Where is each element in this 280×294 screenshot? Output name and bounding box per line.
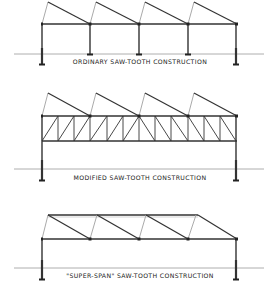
ordinary-saw-tooth-drawing (14, 2, 264, 66)
caption-modified: MODIFIED SAW-TOOTH CONSTRUCTION (0, 174, 280, 181)
saw-tooth-diagram (0, 0, 280, 294)
super-span-saw-tooth-drawing (14, 215, 264, 281)
saw-teeth (42, 93, 237, 116)
modified-saw-tooth-drawing (14, 93, 264, 182)
saw-teeth (42, 215, 237, 239)
saw-teeth (42, 2, 237, 24)
truss-web (42, 116, 236, 141)
caption-super-span: "SUPER-SPAN" SAW-TOOTH CONSTRUCTION (0, 272, 280, 279)
caption-ordinary: ORDINARY SAW-TOOTH CONSTRUCTION (0, 58, 280, 65)
